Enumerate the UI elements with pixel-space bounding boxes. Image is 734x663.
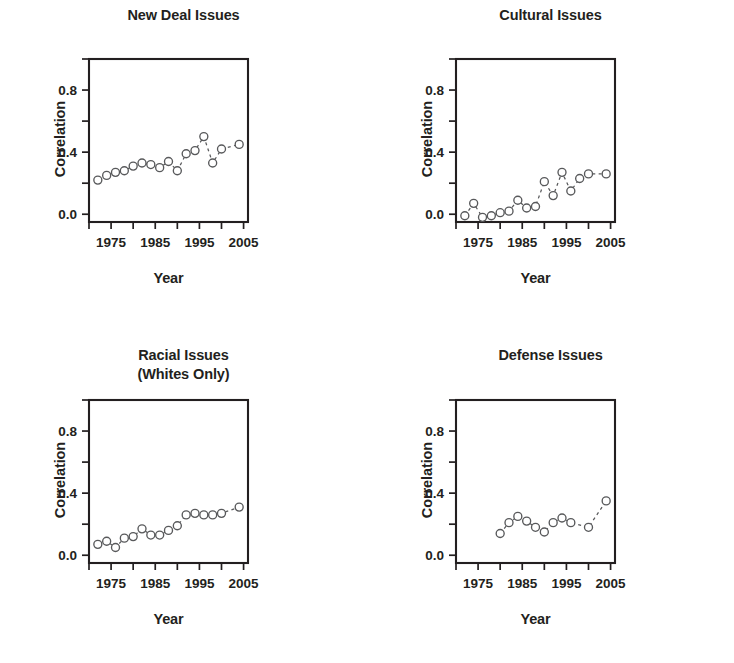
data-point-marker <box>165 526 173 534</box>
data-point-marker <box>496 209 504 217</box>
data-point-marker <box>479 213 487 221</box>
data-point-marker <box>112 168 120 176</box>
data-point-marker <box>182 150 190 158</box>
data-point-marker <box>487 212 495 220</box>
data-point-marker <box>94 176 102 184</box>
data-point-marker <box>540 178 548 186</box>
data-point-marker <box>129 533 137 541</box>
data-point-marker <box>200 133 208 141</box>
chart-panel-3: Defense IssuesCorrelationYear0.00.40.819… <box>367 332 734 663</box>
data-point-marker <box>173 522 181 530</box>
chart-panel-1: Cultural IssuesCorrelationYear0.00.40.81… <box>367 0 734 331</box>
y-tick-label: 0.8 <box>58 424 77 439</box>
data-point-marker <box>200 511 208 519</box>
data-point-marker <box>191 147 199 155</box>
data-point-marker <box>585 170 593 178</box>
x-tick-label: 1995 <box>184 235 215 250</box>
x-tick-label: 2005 <box>229 235 260 250</box>
data-point-marker <box>112 543 120 551</box>
y-tick-label: 0.8 <box>58 83 77 98</box>
plot-area: 0.00.40.81975198519952005 <box>0 332 367 663</box>
data-point-marker <box>567 519 575 527</box>
data-point-marker <box>470 199 478 207</box>
y-tick-label: 0.4 <box>425 486 444 501</box>
data-point-marker <box>235 140 243 148</box>
x-tick-label: 1975 <box>96 576 127 591</box>
x-tick-label: 2005 <box>596 235 627 250</box>
chart-panel-0: New Deal IssuesCorrelationYear0.00.40.81… <box>0 0 367 331</box>
y-tick-label: 0.4 <box>425 145 444 160</box>
axis-frame <box>456 400 615 563</box>
data-point-marker <box>165 157 173 165</box>
data-point-marker <box>94 540 102 548</box>
data-point-marker <box>156 164 164 172</box>
data-point-marker <box>505 519 513 527</box>
x-tick-label: 1995 <box>551 576 582 591</box>
x-tick-label: 1985 <box>140 576 171 591</box>
axis-frame <box>456 59 615 222</box>
figure-multi-panel-scatter: New Deal IssuesCorrelationYear0.00.40.81… <box>0 0 734 663</box>
data-point-marker <box>129 162 137 170</box>
data-point-marker <box>147 161 155 169</box>
x-tick-label: 1975 <box>96 235 127 250</box>
data-point-marker <box>218 145 226 153</box>
y-tick-label: 0.0 <box>58 548 77 563</box>
x-tick-label: 1995 <box>184 576 215 591</box>
data-point-marker <box>120 534 128 542</box>
y-tick-label: 0.4 <box>58 486 77 501</box>
data-point-marker <box>602 497 610 505</box>
data-point-marker <box>496 530 504 538</box>
y-tick-label: 0.8 <box>425 83 444 98</box>
data-point-marker <box>218 509 226 517</box>
x-tick-label: 1975 <box>463 576 494 591</box>
axis-frame <box>89 400 248 563</box>
data-point-marker <box>103 171 111 179</box>
data-point-marker <box>523 204 531 212</box>
data-point-marker <box>147 531 155 539</box>
axis-frame <box>89 59 248 222</box>
data-point-marker <box>523 517 531 525</box>
data-point-marker <box>461 212 469 220</box>
data-point-marker <box>532 523 540 531</box>
data-point-marker <box>532 202 540 210</box>
chart-panel-2: Racial Issues(Whites Only)CorrelationYea… <box>0 332 367 663</box>
plot-area: 0.00.40.81975198519952005 <box>367 332 734 663</box>
data-point-marker <box>120 167 128 175</box>
data-point-marker <box>173 167 181 175</box>
data-point-marker <box>138 525 146 533</box>
data-point-marker <box>103 537 111 545</box>
x-tick-label: 1995 <box>551 235 582 250</box>
data-point-marker <box>209 511 217 519</box>
plot-area: 0.00.40.81975198519952005 <box>0 0 367 331</box>
data-point-marker <box>235 503 243 511</box>
data-point-marker <box>567 187 575 195</box>
data-point-marker <box>209 159 217 167</box>
x-tick-label: 2005 <box>229 576 260 591</box>
data-point-marker <box>549 192 557 200</box>
y-tick-label: 0.0 <box>58 207 77 222</box>
data-point-marker <box>540 528 548 536</box>
data-point-marker <box>138 159 146 167</box>
data-point-marker <box>558 168 566 176</box>
x-tick-label: 1985 <box>507 576 538 591</box>
data-point-marker <box>182 511 190 519</box>
data-point-marker <box>505 207 513 215</box>
data-point-marker <box>191 509 199 517</box>
x-tick-label: 2005 <box>596 576 627 591</box>
data-point-marker <box>558 514 566 522</box>
x-tick-label: 1985 <box>140 235 171 250</box>
y-tick-label: 0.0 <box>425 207 444 222</box>
x-tick-label: 1975 <box>463 235 494 250</box>
y-tick-label: 0.0 <box>425 548 444 563</box>
data-point-marker <box>549 519 557 527</box>
data-point-marker <box>514 512 522 520</box>
data-point-marker <box>585 523 593 531</box>
plot-area: 0.00.40.81975198519952005 <box>367 0 734 331</box>
data-point-marker <box>576 175 584 183</box>
y-tick-label: 0.4 <box>58 145 77 160</box>
x-tick-label: 1985 <box>507 235 538 250</box>
y-tick-label: 0.8 <box>425 424 444 439</box>
data-point-marker <box>514 196 522 204</box>
data-point-marker <box>156 531 164 539</box>
data-point-marker <box>602 170 610 178</box>
